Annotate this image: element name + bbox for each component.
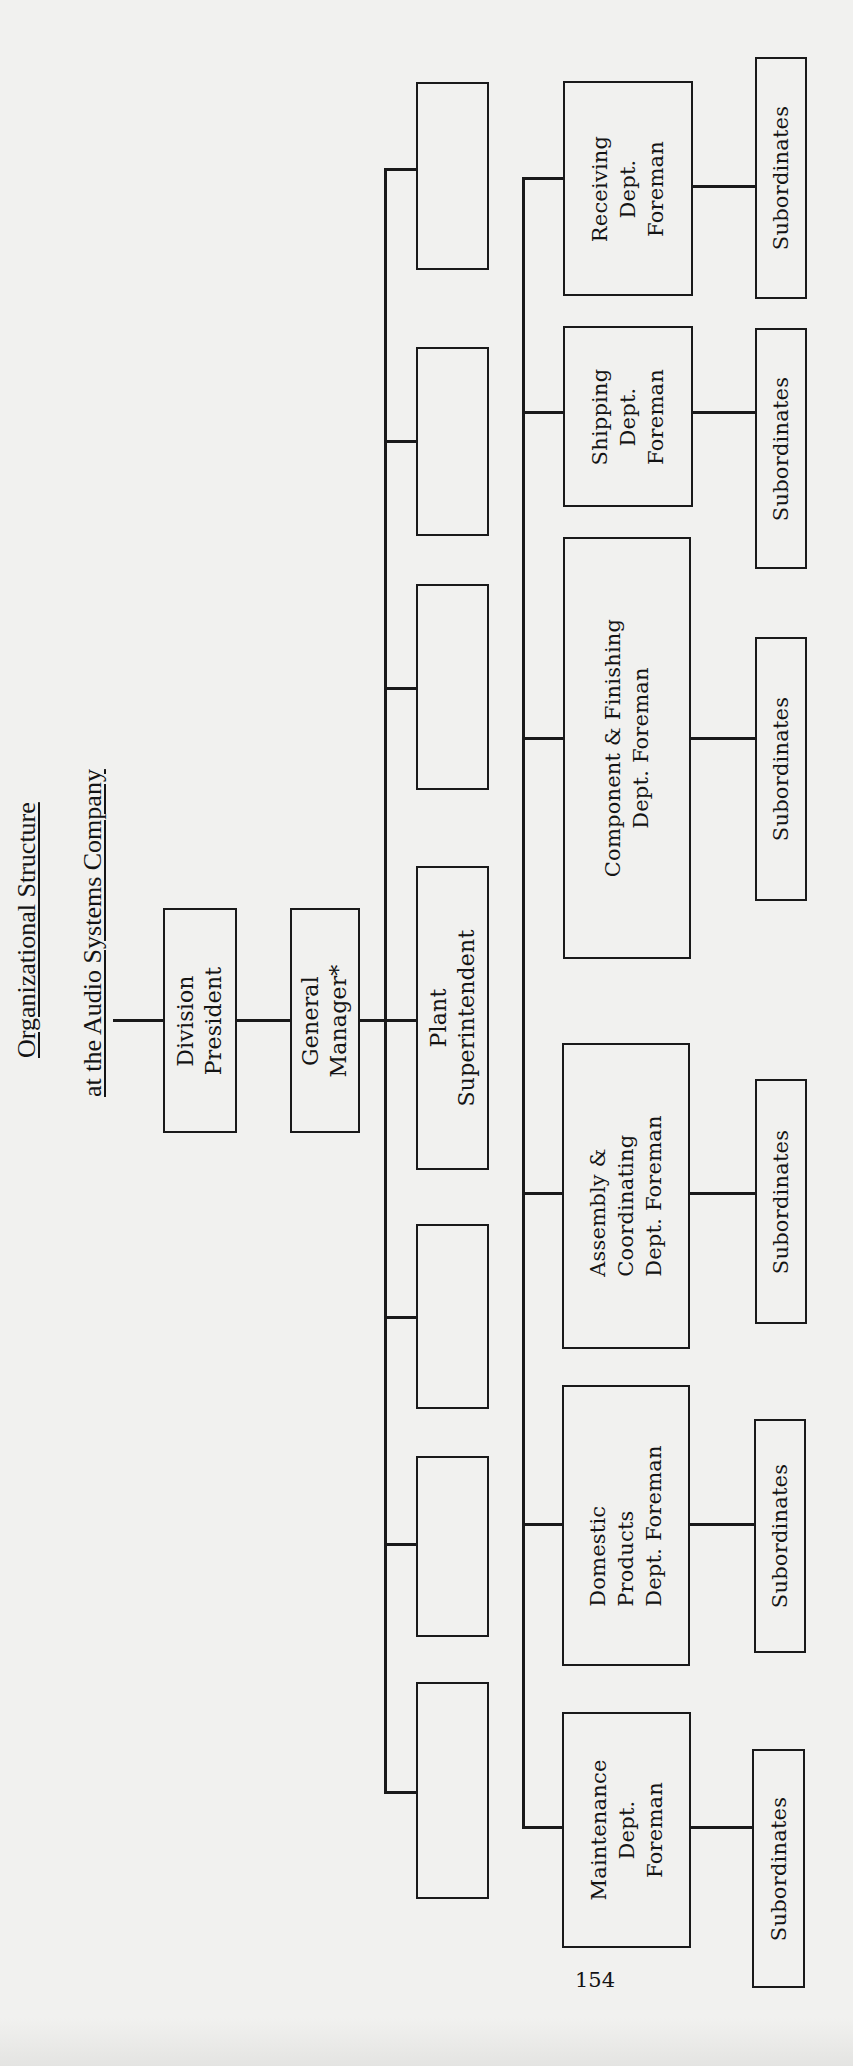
plant-superintendent-label-2: Superintendent: [453, 929, 481, 1106]
connector-general-manager-to-spine: [359, 1019, 417, 1022]
general-manager-box: General Manager*: [290, 908, 360, 1133]
paper-shadow: [0, 2018, 853, 2066]
subordinates-label: Subordinates: [767, 106, 795, 250]
chart-title-line-2: at the Audio Systems Company: [78, 769, 108, 1097]
foreman-label-line: Dept. Foreman: [640, 1115, 668, 1277]
unlabeled-position-box: [416, 347, 489, 536]
connector-empty-5: [384, 1543, 417, 1546]
component-finishing-foreman-box: Component & Finishing Dept. Foreman: [563, 537, 691, 959]
connector-component-subordinates: [690, 737, 756, 740]
connector-empty-4: [384, 1316, 417, 1319]
unlabeled-position-box: [416, 584, 489, 790]
unlabeled-position-box: [416, 1456, 489, 1637]
connector-shipping-subordinates: [692, 411, 756, 414]
division-president-label-1: Division: [172, 966, 200, 1075]
division-president-box: Division President: [163, 908, 237, 1133]
connector-foreman-shipping: [522, 411, 564, 414]
foreman-label-line: Dept.: [614, 368, 642, 465]
division-president-label-2: President: [200, 966, 228, 1075]
component-subordinates-box: Subordinates: [755, 637, 807, 901]
connector-foreman-maintenance: [522, 1826, 563, 1829]
connector-president-to-general-manager: [236, 1019, 291, 1022]
foreman-label-line: Domestic: [584, 1445, 612, 1607]
foreman-label-line: Foreman: [642, 135, 670, 242]
plant-superintendent-label-1: Plant: [425, 929, 453, 1106]
connector-top-to-division-president: [113, 1019, 163, 1022]
foreman-label-line: Component & Finishing: [599, 619, 627, 877]
plant-superintendent-box: Plant Superintendent: [416, 866, 489, 1170]
subordinates-label: Subordinates: [767, 1129, 795, 1273]
receiving-foreman-box: Receiving Dept. Foreman: [563, 81, 693, 296]
spine-general-manager-reports: [384, 168, 387, 1794]
unlabeled-position-box: [416, 1682, 489, 1899]
subordinates-label: Subordinates: [765, 1796, 793, 1940]
connector-receiving-subordinates: [692, 185, 756, 188]
chart-title-line-1: Organizational Structure: [12, 802, 42, 1058]
subordinates-label: Subordinates: [767, 376, 795, 520]
foreman-label-line: Maintenance: [585, 1759, 613, 1900]
domestic-subordinates-box: Subordinates: [754, 1419, 806, 1653]
foreman-label-line: Assembly &: [584, 1115, 612, 1277]
maintenance-subordinates-box: Subordinates: [752, 1749, 805, 1988]
subordinates-label: Subordinates: [767, 697, 795, 841]
domestic-products-foreman-box: Domestic Products Dept. Foreman: [562, 1385, 690, 1666]
receiving-subordinates-box: Subordinates: [755, 57, 807, 299]
connector-foreman-component: [522, 737, 564, 740]
subordinates-label: Subordinates: [766, 1464, 794, 1608]
foreman-label-line: Dept. Foreman: [627, 619, 655, 877]
page-number: 154: [575, 1968, 615, 1992]
general-manager-label-1: General: [297, 964, 325, 1077]
connector-maintenance-subordinates: [690, 1826, 753, 1829]
connector-empty-3: [384, 687, 417, 690]
shipping-foreman-box: Shipping Dept. Foreman: [563, 326, 693, 507]
foreman-label-line: Products: [612, 1445, 640, 1607]
foreman-label-line: Shipping: [586, 368, 614, 465]
connector-domestic-subordinates: [689, 1523, 755, 1526]
maintenance-foreman-box: Maintenance Dept. Foreman: [562, 1712, 691, 1948]
connector-assembly-subordinates: [689, 1192, 756, 1195]
spine-foremen: [522, 177, 525, 1828]
connector-empty-6: [384, 1791, 417, 1794]
connector-foreman-domestic: [522, 1523, 563, 1526]
connector-empty-2: [384, 440, 417, 443]
foreman-label-line: Receiving: [586, 135, 614, 242]
connector-empty-1: [384, 168, 417, 171]
general-manager-label-2: Manager*: [325, 964, 353, 1077]
unlabeled-position-box: [416, 82, 489, 270]
foreman-label-line: Foreman: [641, 1759, 669, 1900]
foreman-label-line: Foreman: [642, 368, 670, 465]
foreman-label-line: Dept. Foreman: [640, 1445, 668, 1607]
assembly-coordinating-foreman-box: Assembly & Coordinating Dept. Foreman: [562, 1043, 690, 1349]
foreman-label-line: Dept.: [614, 135, 642, 242]
connector-foreman-assembly: [522, 1192, 563, 1195]
shipping-subordinates-box: Subordinates: [755, 328, 807, 569]
unlabeled-position-box: [416, 1224, 489, 1409]
foreman-label-line: Coordinating: [612, 1115, 640, 1277]
connector-foreman-receiving: [522, 177, 564, 180]
foreman-label-line: Dept.: [613, 1759, 641, 1900]
assembly-subordinates-box: Subordinates: [755, 1079, 807, 1324]
